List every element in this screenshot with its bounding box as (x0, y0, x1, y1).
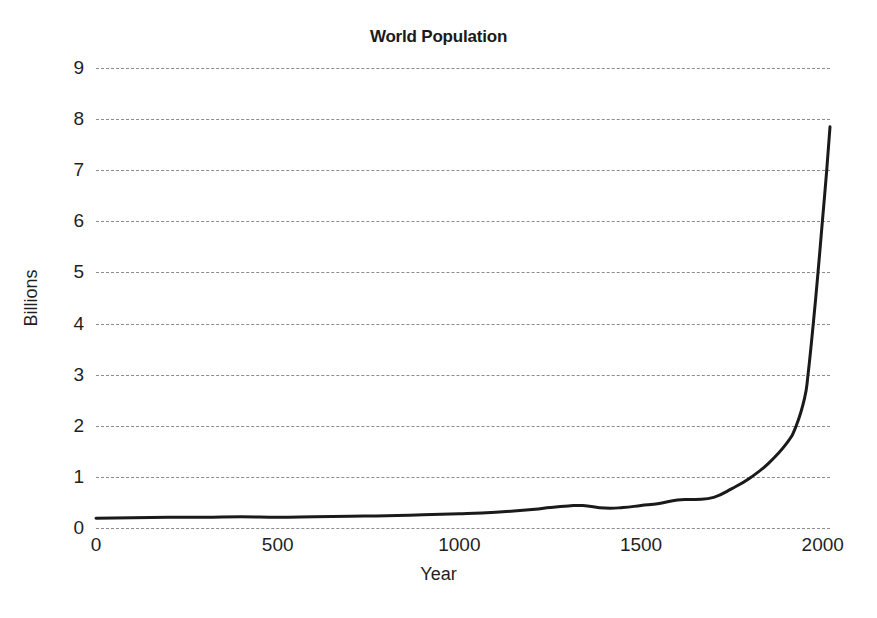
y-tick-label-3: 3 (0, 364, 96, 386)
y-tick-label-1: 1 (0, 466, 96, 488)
x-tick-label-1000: 1000 (438, 534, 480, 556)
x-tick-label-500: 500 (262, 534, 294, 556)
chart-figure: World Population 0123456789 050010001500… (0, 0, 877, 618)
x-tick-label-2000: 2000 (802, 534, 844, 556)
y-tick-label-5: 5 (0, 261, 96, 283)
y-tick-label-0: 0 (0, 517, 96, 539)
y-tick-label-7: 7 (0, 159, 96, 181)
y-axis-title: Billions (21, 269, 42, 326)
y-axis-ticks: 0123456789 (0, 0, 877, 618)
y-tick-label-6: 6 (0, 210, 96, 232)
y-tick-label-2: 2 (0, 415, 96, 437)
x-tick-label-0: 0 (91, 534, 102, 556)
y-tick-label-4: 4 (0, 313, 96, 335)
y-tick-label-9: 9 (0, 57, 96, 79)
y-tick-label-8: 8 (0, 108, 96, 130)
x-tick-label-1500: 1500 (620, 534, 662, 556)
x-axis-title: Year (0, 564, 877, 585)
